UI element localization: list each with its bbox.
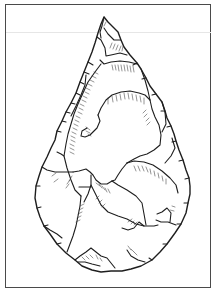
hand-axe-outline xyxy=(35,17,190,272)
hand-axe-illustration xyxy=(0,0,218,295)
